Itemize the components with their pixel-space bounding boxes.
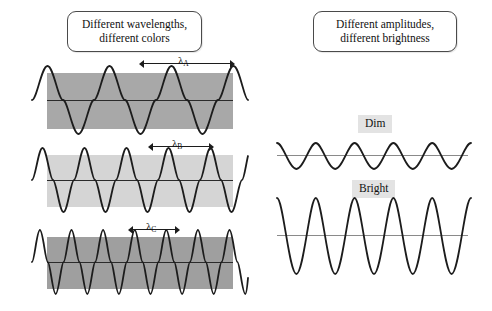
callout-amplitudes: Different amplitudes, different brightne…: [313, 11, 457, 52]
wave-curve-c: [32, 230, 248, 296]
wave-curve-a: [32, 66, 248, 136]
callout-wavelengths-line1: Different wavelengths,: [76, 17, 193, 31]
callout-amplitudes-line2: different brightness: [322, 31, 448, 45]
callout-wavelengths-line2: different colors: [76, 31, 193, 45]
callout-amplitudes-line1: Different amplitudes,: [322, 17, 448, 31]
wave-curve-b: [32, 148, 248, 214]
amplitude-tag-dim: Dim: [358, 115, 392, 133]
figure-canvas: Different wavelengths, different colors …: [0, 0, 492, 311]
wave-curve-dim: [277, 140, 471, 172]
wave-curve-bright: [277, 196, 471, 276]
callout-wavelengths: Different wavelengths, different colors: [67, 11, 202, 52]
